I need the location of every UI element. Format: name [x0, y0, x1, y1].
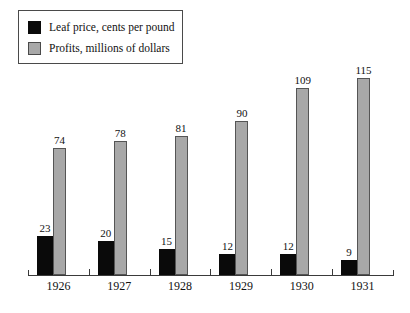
bar-chart: Leaf price, cents per pound Profits, mil… — [0, 0, 410, 313]
axis-tick — [89, 269, 90, 275]
bar-value-label-profits: 74 — [49, 135, 70, 146]
axis-tick — [271, 269, 272, 275]
bar-value-label-profits: 109 — [292, 75, 313, 86]
x-axis-label-1930: 1930 — [271, 279, 332, 293]
bar-group: 2374 — [37, 70, 66, 275]
bar-profits — [235, 121, 248, 275]
x-axis-label-1928: 1928 — [150, 279, 211, 293]
bar-value-label-leaf-price: 9 — [340, 247, 358, 258]
x-axis-label-1926: 1926 — [28, 279, 89, 293]
bar-leaf-price — [219, 254, 235, 275]
bar-group: 2078 — [98, 70, 127, 275]
chart-legend: Leaf price, cents per pound Profits, mil… — [18, 10, 183, 64]
bar-leaf-price — [159, 249, 175, 275]
bar-value-label-leaf-price: 12 — [279, 241, 297, 252]
bar-profits — [53, 148, 66, 275]
legend-label-profits: Profits, millions of dollars — [49, 43, 170, 55]
bar-profits — [357, 78, 370, 275]
legend-swatch-gray-icon — [28, 42, 41, 55]
x-axis-label-1927: 1927 — [89, 279, 150, 293]
bar-value-label-profits: 78 — [110, 128, 131, 139]
axis-tick — [150, 269, 151, 275]
legend-item-profits: Profits, millions of dollars — [28, 38, 182, 59]
plot-area: 2374207815811290121099115 — [28, 70, 393, 275]
x-axis-line — [28, 275, 393, 276]
axis-tick — [210, 269, 211, 275]
bar-value-label-profits: 115 — [353, 65, 374, 76]
bar-profits — [114, 141, 127, 275]
bar-value-label-leaf-price: 12 — [218, 241, 236, 252]
bar-value-label-leaf-price: 23 — [36, 223, 54, 234]
bar-leaf-price — [98, 241, 114, 275]
legend-item-leaf-price: Leaf price, cents per pound — [28, 17, 182, 38]
bar-group: 1290 — [219, 70, 248, 275]
bar-value-label-profits: 81 — [171, 123, 192, 134]
bar-group: 9115 — [341, 70, 370, 275]
axis-tick — [332, 269, 333, 275]
bar-profits — [296, 88, 309, 275]
axis-end-tick-left — [28, 270, 29, 276]
legend-swatch-black-icon — [28, 21, 41, 34]
bar-leaf-price — [341, 260, 357, 275]
x-axis-label-1931: 1931 — [332, 279, 393, 293]
bar-leaf-price — [37, 236, 53, 275]
legend-label-leaf-price: Leaf price, cents per pound — [49, 22, 174, 34]
bar-value-label-leaf-price: 15 — [158, 236, 176, 247]
axis-end-tick-right — [393, 270, 394, 276]
bar-leaf-price — [280, 254, 296, 275]
bar-group: 12109 — [280, 70, 309, 275]
x-axis-label-1929: 1929 — [210, 279, 271, 293]
bar-value-label-profits: 90 — [231, 108, 252, 119]
bar-group: 1581 — [159, 70, 188, 275]
bar-value-label-leaf-price: 20 — [97, 228, 115, 239]
bar-profits — [175, 136, 188, 275]
